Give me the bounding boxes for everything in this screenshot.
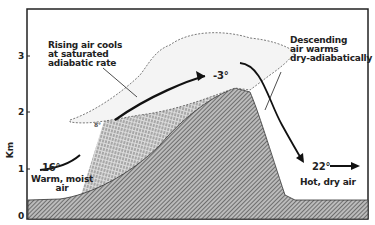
label-descending: Descending air warms dry-adiabatically xyxy=(290,36,372,63)
label-rising: Rising air cools at saturated adiabatic … xyxy=(48,41,122,68)
y-axis-label: Km xyxy=(5,142,15,158)
y-tick-0: 0 xyxy=(18,211,24,221)
temp-start: 16° xyxy=(42,163,60,172)
y-tick-2: 2 xyxy=(18,107,24,117)
temp-end: 22° xyxy=(312,162,330,171)
label-hot-dry: Hot, dry air xyxy=(300,178,356,187)
label-warm-moist: Warm, moist air xyxy=(31,175,93,193)
y-tick-1: 1 xyxy=(18,164,24,174)
y-tick-3: 3 xyxy=(18,51,24,61)
temp-cloud-base: 8° xyxy=(94,120,101,129)
temp-summit: -3° xyxy=(213,71,229,80)
